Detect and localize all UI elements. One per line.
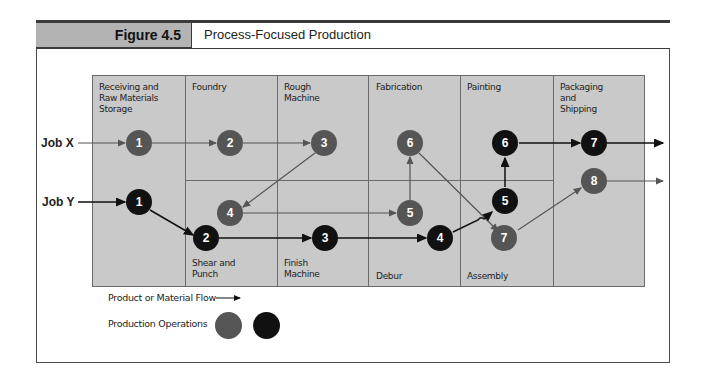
legend-black-operation-icon: [253, 312, 280, 339]
job-x-operation-8: 8: [581, 168, 607, 194]
job-y-operation-1: 1: [126, 189, 152, 215]
job-y-operation-2: 2: [193, 225, 219, 251]
job-y-operation-4: 4: [427, 225, 453, 251]
legend-gray-operation-icon: [215, 312, 242, 339]
job-x-operation-4: 4: [217, 200, 243, 226]
job-x-operation-2: 2: [217, 130, 243, 156]
job-x-operation-5: 5: [397, 200, 423, 226]
job-x-operation-6: 6: [397, 130, 423, 156]
job-x-operation-3: 3: [311, 130, 337, 156]
legend-flow-label: Product or Material Flow: [108, 292, 216, 303]
job-x-operation-7: 7: [491, 225, 517, 251]
job-y-operation-5: 5: [492, 188, 518, 214]
legend-operations-label: Production Operations: [108, 318, 208, 329]
job-y-operation-6: 6: [492, 130, 518, 156]
job-x-operation-1: 1: [126, 130, 152, 156]
job-y-operation-3: 3: [312, 225, 338, 251]
job-y-operation-7: 7: [581, 130, 607, 156]
